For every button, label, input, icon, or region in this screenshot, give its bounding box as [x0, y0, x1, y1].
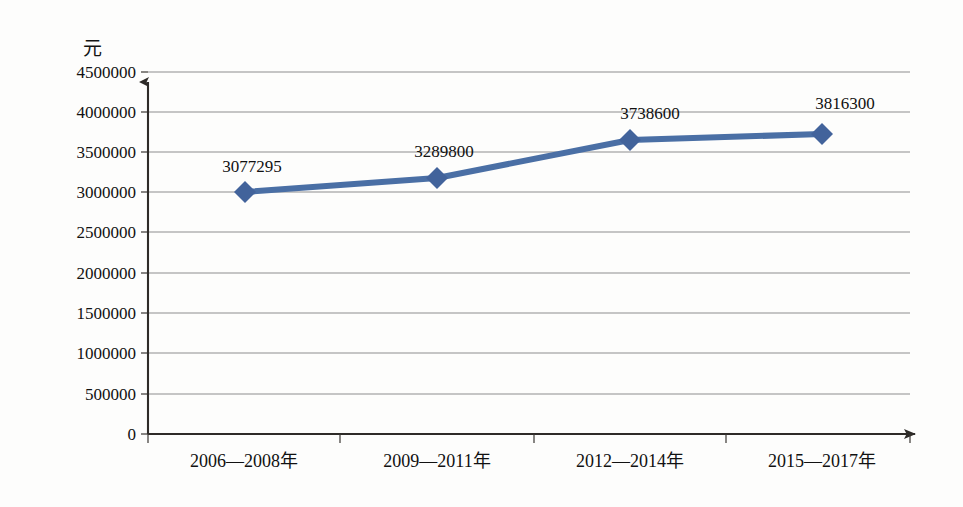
x-tick-label-2009-2011: 2009—2011年	[383, 452, 490, 470]
line-chart-canvas	[0, 0, 963, 507]
chart-container: 元 4500000 4000000 3500000 3000000 250000…	[0, 0, 963, 507]
y-tick-label-3500000: 3500000	[0, 144, 136, 161]
gridlines	[148, 72, 910, 394]
y-tick-label-500000: 500000	[0, 386, 136, 403]
data-label-2012-2014: 3738600	[620, 105, 680, 122]
y-tick-label-2500000: 2500000	[0, 224, 136, 241]
x-tick-label-2015-2017: 2015—2017年	[768, 452, 876, 470]
y-tick-label-4500000: 4500000	[0, 64, 136, 81]
y-tick-label-4000000: 4000000	[0, 104, 136, 121]
y-tick-label-2000000: 2000000	[0, 265, 136, 282]
x-tick-label-2012-2014: 2012—2014年	[576, 452, 684, 470]
data-point-marker[interactable]	[619, 129, 641, 151]
y-tick-label-0: 0	[0, 426, 136, 443]
data-label-2006-2008: 3077295	[222, 158, 282, 175]
data-point-marker[interactable]	[811, 123, 833, 145]
y-tick-label-1500000: 1500000	[0, 305, 136, 322]
x-axis-ticks	[148, 434, 910, 443]
y-tick-label-1000000: 1000000	[0, 345, 136, 362]
data-label-2015-2017: 3816300	[815, 95, 875, 112]
y-tick-label-3000000: 3000000	[0, 184, 136, 201]
series-line	[245, 134, 822, 192]
data-point-marker[interactable]	[234, 181, 256, 203]
y-axis-unit-label: 元	[83, 33, 102, 60]
data-label-2009-2011: 3289800	[414, 143, 474, 160]
data-point-marker[interactable]	[426, 167, 448, 189]
x-tick-label-2006-2008: 2006—2008年	[190, 452, 298, 470]
